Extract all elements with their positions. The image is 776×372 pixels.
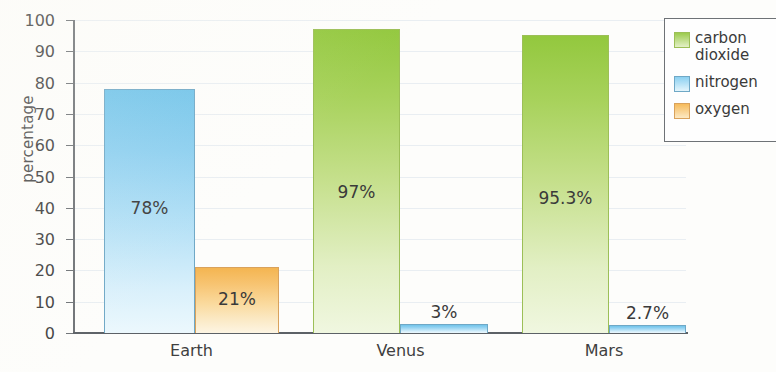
- legend-swatch-carbon-dioxide-icon: [674, 32, 690, 48]
- bar-group-earth: 78% 21%: [104, 20, 279, 333]
- bar-label-earth-oxygen: 21%: [218, 289, 256, 309]
- bar-mars-carbon-dioxide[interactable]: 95.3%: [522, 35, 609, 333]
- tick-label-70: 70: [35, 104, 55, 123]
- tick-label-40: 40: [35, 198, 55, 217]
- bar-earth-nitrogen[interactable]: 78%: [104, 89, 195, 333]
- tick-label-10: 10: [35, 292, 55, 311]
- legend-swatch-oxygen-icon: [674, 103, 690, 119]
- y-axis-line: [73, 20, 75, 334]
- legend-label-oxygen: oxygen: [695, 101, 750, 118]
- bar-label-venus-carbon-dioxide: 97%: [338, 182, 376, 202]
- legend-swatch-nitrogen-icon: [674, 76, 690, 92]
- legend-label-nitrogen: nitrogen: [695, 74, 758, 91]
- category-label-mars: Mars: [522, 341, 686, 360]
- category-label-earth: Earth: [104, 341, 279, 360]
- bar-venus-carbon-dioxide[interactable]: 97%: [313, 29, 400, 333]
- legend: carbon dioxide nitrogen oxygen: [664, 18, 776, 142]
- tick-label-50: 50: [35, 167, 55, 186]
- legend-item-carbon-dioxide[interactable]: carbon dioxide: [674, 30, 776, 65]
- tick-label-30: 30: [35, 230, 55, 249]
- bar-label-venus-nitrogen: 3%: [431, 302, 458, 322]
- tick-label-0: 0: [45, 324, 55, 343]
- bar-label-earth-nitrogen: 78%: [131, 198, 169, 218]
- bar-mars-nitrogen[interactable]: 2.7%: [609, 325, 686, 334]
- legend-label-carbon-dioxide: carbon dioxide: [695, 30, 776, 65]
- bar-group-venus: 97% 3%: [313, 20, 488, 333]
- category-label-venus: Venus: [313, 341, 488, 360]
- legend-item-oxygen[interactable]: oxygen: [674, 101, 776, 119]
- tick-label-80: 80: [35, 73, 55, 92]
- bar-label-mars-nitrogen: 2.7%: [626, 303, 669, 323]
- tick-label-60: 60: [35, 136, 55, 155]
- tick-label-90: 90: [35, 42, 55, 61]
- bar-venus-nitrogen[interactable]: 3%: [400, 324, 488, 333]
- bar-group-mars: 95.3% 2.7%: [522, 20, 686, 333]
- bar-label-mars-carbon-dioxide: 95.3%: [538, 188, 592, 208]
- tick-label-100: 100: [24, 11, 55, 30]
- tick-label-20: 20: [35, 261, 55, 280]
- bar-earth-oxygen[interactable]: 21%: [195, 267, 279, 333]
- legend-item-nitrogen[interactable]: nitrogen: [674, 74, 776, 92]
- plot-area: 100 90 80 70 60 50 40 30: [73, 20, 686, 333]
